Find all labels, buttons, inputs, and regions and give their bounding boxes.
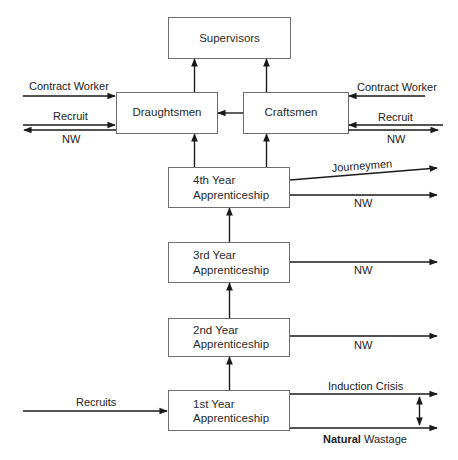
label-4th-year-nw: NW xyxy=(354,197,373,209)
box-craftsmen-label: Craftsmen xyxy=(264,106,317,118)
box-3rd-year-apprenticeship: 3rd Year Apprenticeship xyxy=(169,243,290,283)
box-craftsmen: Craftsmen xyxy=(244,93,349,134)
box-supervisors: Supervisors xyxy=(169,18,291,59)
box-4th-year-line1: 4th Year xyxy=(193,174,235,186)
box-1st-year-apprenticeship: 1st Year Apprenticeship xyxy=(169,391,290,431)
flow-diagram: Supervisors Draughtsmen Craftsmen 4th Ye… xyxy=(0,0,458,460)
box-2nd-year-apprenticeship: 2nd Year Apprenticeship xyxy=(169,319,290,357)
box-3rd-year-line1: 3rd Year xyxy=(193,249,236,261)
box-1st-year-line1: 1st Year xyxy=(193,398,235,410)
label-journeymen: Journeymen xyxy=(331,157,392,174)
label-natural-wastage-prefix: Natural xyxy=(323,433,361,445)
label-natural-wastage: Natural Wastage xyxy=(323,433,407,445)
label-right-contract-worker: Contract Worker xyxy=(357,81,437,93)
box-1st-year-line2: Apprenticeship xyxy=(193,412,269,424)
label-left-contract-worker: Contract Worker xyxy=(29,80,109,92)
box-supervisors-label: Supervisors xyxy=(199,32,260,44)
label-recruits: Recruits xyxy=(76,396,117,408)
label-right-recruit: Recruit xyxy=(378,111,413,123)
label-2nd-year-nw: NW xyxy=(354,339,373,351)
label-induction-crisis: Induction Crisis xyxy=(328,380,404,392)
box-3rd-year-line2: Apprenticeship xyxy=(193,264,269,276)
box-4th-year-apprenticeship: 4th Year Apprenticeship xyxy=(169,168,290,208)
label-left-nw: NW xyxy=(62,133,81,145)
box-4th-year-line2: Apprenticeship xyxy=(193,189,269,201)
label-left-recruit: Recruit xyxy=(53,110,88,122)
box-draughtsmen-label: Draughtsmen xyxy=(132,106,201,118)
label-natural-wastage-suffix: Wastage xyxy=(361,433,407,445)
label-3rd-year-nw: NW xyxy=(354,264,373,276)
box-draughtsmen: Draughtsmen xyxy=(117,93,218,134)
box-2nd-year-line2: Apprenticeship xyxy=(193,338,269,350)
box-2nd-year-line1: 2nd Year xyxy=(193,324,239,336)
label-right-nw: NW xyxy=(387,133,406,145)
